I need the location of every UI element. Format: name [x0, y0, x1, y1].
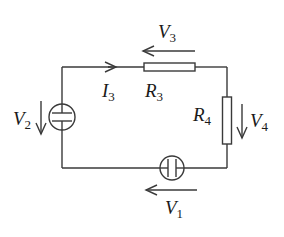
label-r4: R4: [192, 104, 212, 128]
label-r3: R3: [144, 80, 163, 104]
arrow-down-icon: [36, 101, 46, 134]
label-v1: V1: [165, 197, 183, 221]
label-v2: V2: [13, 108, 31, 132]
resistor-r3: [144, 63, 195, 71]
voltage-source-v2: [49, 104, 75, 130]
arrow-down-icon: [237, 104, 247, 138]
resistor-r4: [223, 97, 232, 144]
arrow-left-icon: [146, 185, 197, 195]
arrow-left-icon: [143, 46, 195, 56]
label-v4: V4: [250, 110, 269, 134]
label-i3: I3: [101, 80, 115, 104]
circuit-diagram: V3 I3 R3 R4 V4 V2 V1: [0, 0, 284, 237]
voltage-source-v1: [160, 156, 184, 180]
label-v3: V3: [158, 21, 176, 45]
